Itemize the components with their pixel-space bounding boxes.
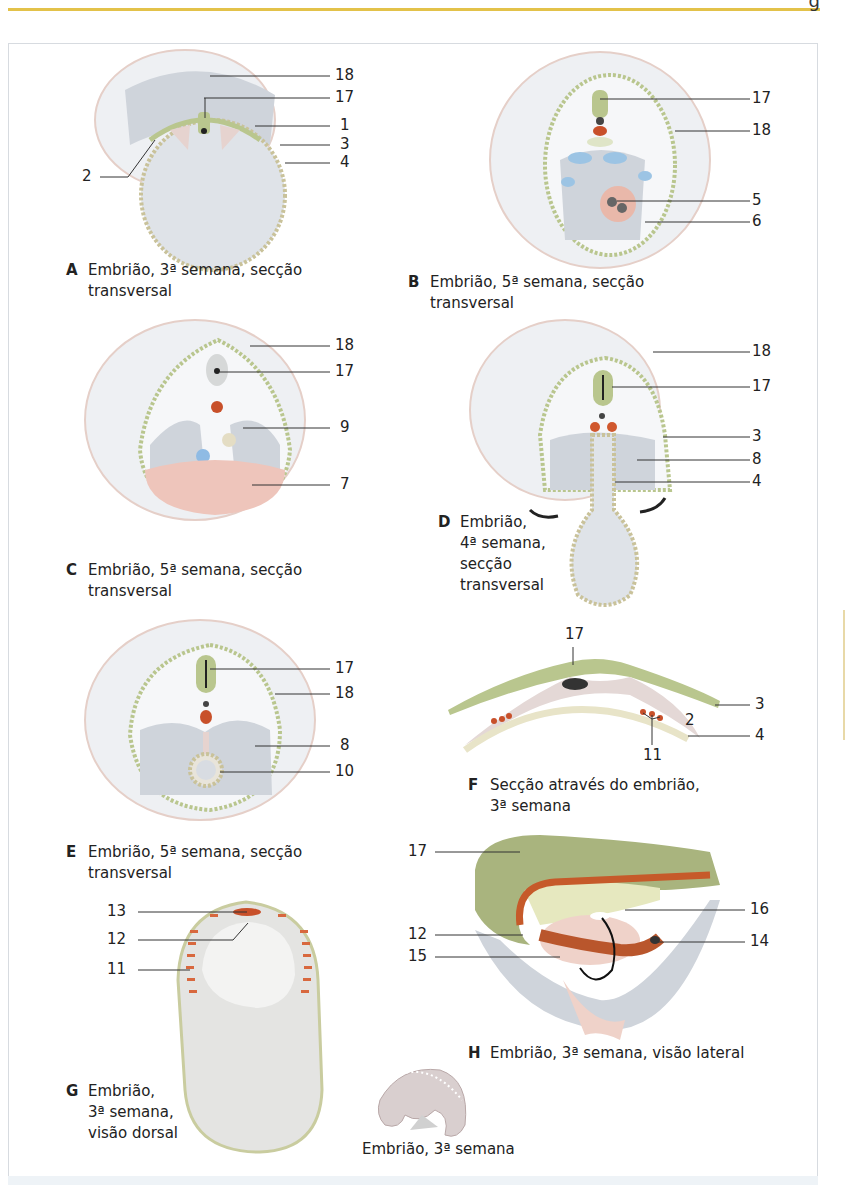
- figure-a: 18 17 1 3 4 2 AEmbrião, 3ª semana, secçã…: [0, 0, 400, 310]
- caption-letter: B: [408, 272, 430, 293]
- caption-letter: F: [468, 775, 490, 796]
- figure-c: 18 17 9 7 CEmbrião, 5ª semana, secção tr…: [0, 310, 400, 610]
- label-17: 17: [408, 844, 427, 859]
- label-12: 12: [408, 927, 427, 942]
- label-17: 17: [335, 90, 354, 105]
- frame-bottom-band: [8, 1176, 818, 1185]
- label-18: 18: [335, 68, 354, 83]
- caption-letter: E: [66, 842, 88, 863]
- label-18: 18: [335, 686, 354, 701]
- label-14: 14: [750, 934, 769, 949]
- margin-marker: [843, 610, 845, 740]
- label-10: 10: [335, 764, 354, 779]
- figure-g: 13 12 11 GEmbrião, 3ª semana, visão dors…: [50, 890, 350, 1175]
- label-7: 7: [340, 477, 350, 492]
- caption-g: GEmbrião, 3ª semana, visão dorsal: [66, 1081, 178, 1144]
- label-6: 6: [752, 214, 762, 229]
- caption-c: CEmbrião, 5ª semana, secção transversal: [66, 560, 302, 602]
- caption-f: FSecção através do embrião, 3ª semana: [468, 775, 700, 817]
- caption-letter: C: [66, 560, 88, 581]
- caption-inset: Embrião, 3ª semana: [362, 1139, 515, 1160]
- figure-h-illustration: [380, 830, 820, 1070]
- label-17: 17: [752, 379, 771, 394]
- label-1: 1: [340, 118, 350, 133]
- label-3: 3: [340, 137, 350, 152]
- label-3: 3: [755, 697, 765, 712]
- label-4: 4: [340, 155, 350, 170]
- label-13: 13: [107, 904, 126, 919]
- label-18: 18: [335, 338, 354, 353]
- caption-letter: G: [66, 1081, 88, 1102]
- caption-letter: D: [438, 512, 460, 533]
- figure-f: 17 3 2 4 11 FSecção através do embrião, …: [430, 615, 820, 825]
- label-11: 11: [643, 748, 662, 763]
- label-15: 15: [408, 949, 427, 964]
- label-2: 2: [82, 169, 92, 184]
- caption-b: BEmbrião, 5ª semana, secção transversal: [408, 272, 644, 314]
- label-18: 18: [752, 123, 771, 138]
- label-8: 8: [752, 452, 762, 467]
- label-11: 11: [107, 962, 126, 977]
- label-16: 16: [750, 902, 769, 917]
- caption-a: AEmbrião, 3ª semana, secção transversal: [66, 260, 302, 302]
- label-4: 4: [752, 474, 762, 489]
- label-12: 12: [107, 932, 126, 947]
- label-3: 3: [752, 429, 762, 444]
- figure-h: 17 16 12 14 15 HEmbrião, 3ª semana, visã…: [380, 830, 820, 1070]
- figure-d: 18 17 3 8 4 DEmbrião, 4ª semana, secção …: [400, 320, 820, 610]
- caption-d: DEmbrião, 4ª semana, secção transversal: [438, 512, 546, 596]
- figure-e: 17 18 8 10 EEmbrião, 5ª semana, secção t…: [0, 610, 400, 890]
- label-17: 17: [752, 91, 771, 106]
- label-8: 8: [340, 738, 350, 753]
- figure-b: 17 18 5 6 BEmbrião, 5ª semana, secção tr…: [400, 0, 820, 320]
- label-9: 9: [340, 420, 350, 435]
- label-17: 17: [335, 364, 354, 379]
- figure-inset: Embrião, 3ª semana: [340, 1055, 580, 1175]
- label-17: 17: [335, 661, 354, 676]
- caption-letter: A: [66, 260, 88, 281]
- label-2: 2: [685, 713, 695, 728]
- label-18: 18: [752, 344, 771, 359]
- label-17: 17: [565, 627, 584, 642]
- label-4: 4: [755, 728, 765, 743]
- caption-e: EEmbrião, 5ª semana, secção transversal: [66, 842, 302, 884]
- label-5: 5: [752, 193, 762, 208]
